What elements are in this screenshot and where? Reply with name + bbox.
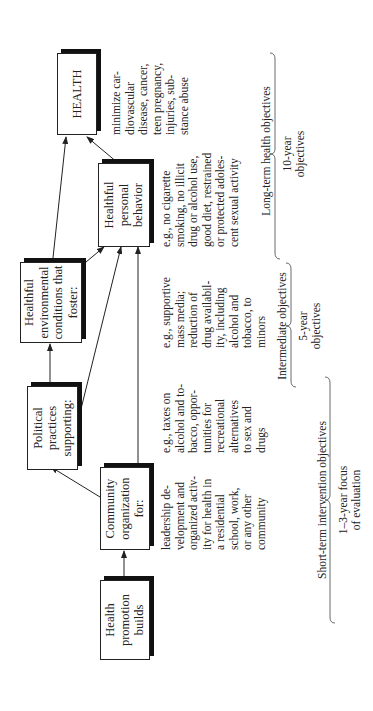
description-health: minimize car- diovascular disease, cance…: [110, 63, 191, 135]
box-personal-behavior-label: Healthful personal behavior: [102, 166, 146, 244]
intermediate-years-label: 5-year objectives: [297, 291, 323, 361]
box-environmental-conditions: Healthful environmental conditions that …: [20, 262, 82, 343]
short-term-focus-label: 1–3-year focus of evaluation: [337, 450, 363, 550]
short-term-objectives-label: Short-term intervention objectives: [316, 420, 329, 580]
description-personal-behavior: e.g., no cigarette smoking, no illicit d…: [160, 153, 241, 247]
intermediate-objectives-label: Intermediate objectives: [276, 271, 289, 381]
box-health: HEALTH: [57, 53, 97, 135]
long-term-objectives-label: Long-term health objectives: [260, 81, 273, 221]
box-political-practices: Political practices supporting:: [27, 386, 78, 470]
long-term-years-label: 10-year objectives: [281, 119, 307, 189]
box-community-organization: Community organization for:: [100, 467, 150, 550]
box-community-organization-label: Community organization for:: [103, 470, 147, 547]
box-health-label: HEALTH: [70, 70, 85, 119]
box-personal-behavior: Healthful personal behavior: [98, 163, 150, 247]
box-environmental-conditions-label: Healthful environmental conditions that …: [22, 265, 80, 340]
box-political-practices-label: Political practices supporting:: [31, 389, 75, 467]
health-promotion-diagram: Health promotion builds Community organi…: [0, 0, 373, 711]
box-health-promotion-label: Health promotion builds: [103, 583, 147, 657]
description-environmental-conditions: e.g., supportive mass media; reduction o…: [160, 277, 268, 348]
description-political-practices: e.g., taxes on alcohol and to- bacco, op…: [160, 384, 268, 453]
box-health-promotion: Health promotion builds: [100, 580, 150, 660]
description-community-organization: leadership de- velopment and organized a…: [160, 476, 268, 550]
